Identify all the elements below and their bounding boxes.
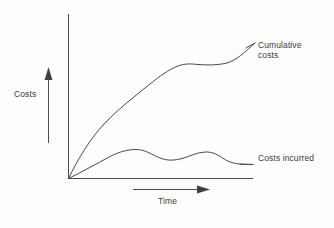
costs-incurred-label: Costs incurred <box>258 153 314 163</box>
right-arrow-icon <box>133 186 210 194</box>
y-axis-label: Costs <box>14 89 36 99</box>
incurred-label-leader <box>240 164 253 165</box>
costs-incurred-curve <box>69 150 254 179</box>
cumulative-costs-figure: Costs Time Cumulative costs Costs incurr… <box>0 0 334 228</box>
cumulative-costs-label: Cumulative costs <box>258 40 302 60</box>
figure-canvas <box>0 0 334 228</box>
up-arrow-icon <box>45 67 53 143</box>
x-axis-label: Time <box>158 196 177 206</box>
